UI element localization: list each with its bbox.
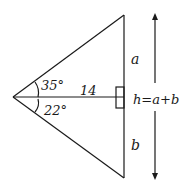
arrow-down-icon <box>152 173 158 180</box>
segment-a-label: a <box>131 51 139 67</box>
angle-top-label: 35° <box>41 78 64 93</box>
segment-b-label: b <box>131 137 140 153</box>
angle-arc-bottom <box>35 99 39 112</box>
height-label: h=a+b <box>133 92 179 107</box>
arrow-up-icon <box>152 13 158 20</box>
altitude-label: 14 <box>80 83 97 98</box>
angle-bottom-label: 22° <box>43 103 67 118</box>
lower-side <box>13 97 124 178</box>
angle-arc-top <box>35 82 39 97</box>
triangle-diagram: 35° 22° 14 a b h=a+b <box>0 0 187 193</box>
upper-side <box>13 15 124 97</box>
